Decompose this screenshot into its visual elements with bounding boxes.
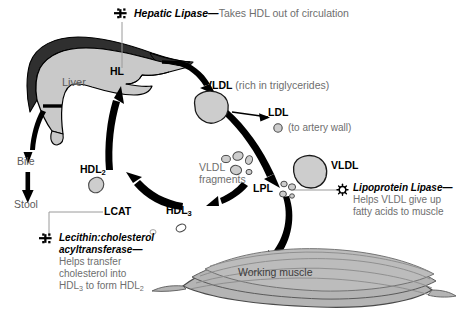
lipoprotein-lipase-head: Lipoprotein Lipase— <box>353 182 452 194</box>
liver-label: Liver <box>62 76 86 89</box>
vldl-fragments-label: VLDL fragments <box>199 162 246 186</box>
liver-inferior-tail <box>51 131 63 145</box>
callout-lipoprotein-lipase: Lipoprotein Lipase— Helps VLDL give up f… <box>353 182 452 218</box>
callout-lcat: Lecithin:cholesterol acyltransferase— He… <box>59 232 154 293</box>
lcat-body-line2: cholesterol into <box>59 268 154 280</box>
lcat-body-hdl2-sub: 2 <box>140 284 144 293</box>
hdl2-subscript: 2 <box>102 168 106 177</box>
vldl-particle-top <box>195 91 229 123</box>
lipoprotein-metabolism-diagram: Hepatic Lipase—Takes HDL out of circulat… <box>0 0 476 315</box>
lipoprotein-lipase-body-line1: Helps VLDL give up <box>353 194 452 206</box>
vldl-right-label: VLDL <box>331 160 358 172</box>
hdl2-text: HDL <box>80 163 102 175</box>
fatty-acid-droplets <box>280 181 296 198</box>
hdl3-text: HDL <box>166 204 188 216</box>
vldl-top-label: VLDL <box>205 79 232 91</box>
hdl3-label: HDL3 <box>166 205 192 218</box>
enzyme-cross-icon-lcat <box>39 233 52 243</box>
lcat-body-line1: Helps transfer <box>59 256 154 268</box>
hdl3-subscript: 3 <box>188 209 192 218</box>
vldl-top-note: (rich in triglycerides) <box>235 79 329 91</box>
hdl2-particle <box>89 177 104 193</box>
ldl-particle <box>274 124 282 132</box>
lipoprotein-lipase-body-line2: fatty acids to muscle <box>353 206 452 218</box>
vldl-particle-right <box>294 156 327 188</box>
hepatic-lipase-head: Hepatic Lipase— <box>134 7 219 19</box>
enzyme-cross-icon-hepatic-lipase <box>114 8 127 18</box>
ldl-note: (to artery wall) <box>288 122 351 133</box>
vldl-top-label-group: VLDL (rich in triglycerides) <box>205 80 329 92</box>
lcat-body-line3: HDL3 to form HDL2 <box>59 280 154 293</box>
arrow-hdl2-to-liver <box>105 86 124 170</box>
lcat-body-mid: to form HDL <box>83 280 140 291</box>
lcat-head-line1: Lecithin:cholesterol <box>59 232 154 244</box>
lpl-label: LPL <box>253 183 273 195</box>
hepatic-lipase-body: Takes HDL out of circulation <box>219 7 349 19</box>
lcat-label: LCAT <box>104 206 131 218</box>
lcat-body-hdl3: HDL <box>59 280 79 291</box>
hdl3-particle <box>175 223 187 233</box>
working-muscle-label: Working muscle <box>238 267 313 279</box>
bile-label: Bile <box>17 156 35 168</box>
callout-hepatic-lipase: Hepatic Lipase—Takes HDL out of circulat… <box>134 7 349 20</box>
hdl2-label: HDL2 <box>80 164 106 177</box>
vldl-fragments-line2: fragments <box>199 174 246 186</box>
enzyme-star-icon-lipoprotein-lipase <box>337 184 348 195</box>
hl-label: HL <box>110 66 124 78</box>
lcat-head-line2: acyltransferase— <box>59 244 154 256</box>
ldl-label: LDL <box>268 107 288 119</box>
stool-label: Stool <box>14 199 38 211</box>
